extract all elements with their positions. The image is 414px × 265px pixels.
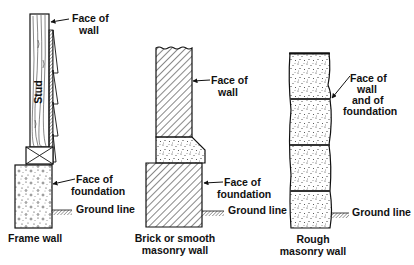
concrete-cap (156, 137, 205, 163)
ground-hatch (202, 211, 224, 216)
caption-brick-wall-2: masonry wall (142, 244, 209, 256)
ground-hatch (52, 210, 72, 215)
siding (53, 30, 58, 162)
callout-face-of-foundation-2b: foundation (217, 188, 271, 200)
rough-masonry-wall (289, 53, 331, 228)
callout-face-of-foundation-2: Face of (224, 176, 261, 188)
callout-face-of-foundation-1: Face of (76, 173, 113, 185)
callout-face-of-wall-2: Face of (211, 74, 248, 86)
caption-rough-wall: Rough (296, 233, 329, 245)
concrete-foundation (15, 165, 52, 228)
rough-wall-panel: Face of wall and of foundation Ground li… (280, 53, 411, 257)
stud: Stud (30, 14, 49, 147)
frame-wall-panel: Stud Face of wall Face of foundation Gro… (8, 12, 135, 244)
caption-frame-wall: Frame wall (8, 232, 62, 244)
stud-label: Stud (32, 80, 44, 103)
callout-face-of-wall-1b: wall (78, 24, 99, 36)
brick-wall-panel: Face of wall Face of foundation Ground l… (135, 47, 287, 256)
brick-foundation (146, 163, 202, 227)
ground-hatch (331, 213, 349, 218)
sill-plate (26, 147, 53, 164)
callout-ground-line-1: Ground line (76, 203, 135, 215)
caption-brick-wall: Brick or smooth (135, 232, 216, 244)
caption-rough-wall-2: masonry wall (280, 245, 347, 257)
callout-ground-line-3: Ground line (352, 206, 411, 218)
callout-ground-line-2: Ground line (228, 204, 287, 216)
callout-face-of-foundation-1b: foundation (71, 185, 125, 197)
callout-face-of-wall-1: Face of (72, 12, 109, 24)
brick-wall (156, 47, 192, 137)
sheathing (49, 30, 53, 164)
callout-face-of-wall-2b: wall (217, 86, 238, 98)
callout-line-4: foundation (343, 105, 397, 117)
wall-section-diagram: Stud Face of wall Face of foundation Gro… (0, 0, 414, 265)
